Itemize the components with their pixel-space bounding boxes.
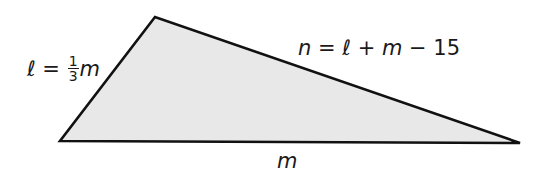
side-m-variable: m xyxy=(80,57,100,81)
term-m: m xyxy=(382,36,402,60)
side-l-variable: ℓ xyxy=(27,57,36,81)
bottom-side-label: m xyxy=(277,151,297,172)
triangle-shape xyxy=(0,0,546,177)
constant-15: 15 xyxy=(433,36,460,60)
equals-sign: = xyxy=(36,57,67,81)
equals-sign: = xyxy=(311,36,342,60)
plus-sign: + xyxy=(351,36,382,60)
term-l: ℓ xyxy=(342,36,351,60)
one-third-fraction: 13 xyxy=(68,54,79,83)
minus-sign: − xyxy=(402,36,433,60)
side-n-variable: n xyxy=(298,36,311,60)
fraction-denominator: 3 xyxy=(68,69,79,83)
top-side-label: n = ℓ + m − 15 xyxy=(298,38,460,59)
left-side-label: ℓ = 13m xyxy=(27,55,100,84)
triangle-diagram: ℓ = 13m n = ℓ + m − 15 m xyxy=(0,0,546,177)
fraction-numerator: 1 xyxy=(68,54,79,69)
